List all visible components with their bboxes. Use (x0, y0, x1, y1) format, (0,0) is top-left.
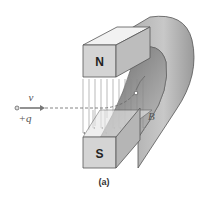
velocity-label: v (29, 91, 34, 103)
field-label: B (148, 110, 155, 122)
incoming-particle: v +q (15, 91, 45, 124)
charge-label: +q (19, 112, 32, 124)
south-label: S (95, 147, 103, 161)
diagram-svg: N S (0, 0, 208, 198)
figure-caption: (a) (99, 177, 110, 187)
velocity-arrow-icon (40, 105, 45, 111)
charge-particle-icon (15, 106, 19, 110)
magnet-field-diagram: N S (0, 0, 208, 198)
north-label: N (95, 55, 104, 69)
particle-exit-icon (134, 91, 138, 95)
